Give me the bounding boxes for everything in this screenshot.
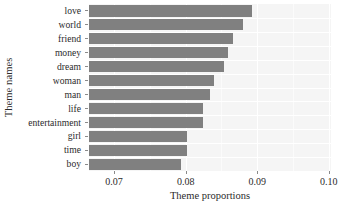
y-axis-title: Theme names: [0, 0, 18, 175]
bar-row: [89, 157, 331, 171]
bar-row: [89, 46, 331, 60]
y-axis-tick-labels: loveworldfriendmoneydreamwomanmanlifeent…: [18, 4, 84, 171]
x-axis-tick-label-text: 0.10: [320, 175, 338, 189]
y-axis-tick-label: world: [18, 18, 84, 32]
y-axis-title-text: Theme names: [4, 58, 15, 118]
x-axis-title: Theme proportions: [89, 190, 331, 201]
bar-row: [89, 60, 331, 74]
tick-dash-icon: [85, 52, 88, 53]
bars-layer: [89, 4, 331, 171]
y-axis-tick-label: boy: [18, 157, 84, 171]
x-axis-tick-label-text: 0.08: [177, 175, 195, 189]
y-axis-tick-label-text: friend: [58, 34, 81, 44]
bar: [89, 61, 224, 72]
bar-row: [89, 101, 331, 115]
x-axis-tick-mark: [257, 171, 258, 174]
y-axis-tick-label: man: [18, 88, 84, 102]
tick-dash-icon: [85, 94, 88, 95]
y-axis-tick-label-text: entertainment: [28, 118, 81, 128]
x-axis-tick-labels: 0.070.080.090.10: [89, 175, 331, 189]
bar-row: [89, 143, 331, 157]
tick-dash-icon: [85, 150, 88, 151]
bar: [89, 5, 252, 16]
y-axis-tick-label: girl: [18, 129, 84, 143]
y-axis-tick-label: dream: [18, 60, 84, 74]
bar: [89, 33, 233, 44]
bar: [89, 89, 210, 100]
tick-dash-icon: [85, 24, 88, 25]
tick-dash-icon: [85, 164, 88, 165]
y-axis-tick-label-text: boy: [67, 159, 81, 169]
bar-row: [89, 74, 331, 88]
tick-dash-icon: [85, 80, 88, 81]
y-axis-tick-label: life: [18, 101, 84, 115]
y-axis-tick-label-text: woman: [53, 76, 81, 86]
bar-chart: Theme names loveworldfriendmoneydreamwom…: [0, 0, 346, 217]
bar-row: [89, 18, 331, 32]
y-axis-tick-label-text: man: [64, 90, 81, 100]
x-axis-tick-label-text: 0.09: [249, 175, 267, 189]
x-axis-tick-label-text: 0.07: [105, 175, 123, 189]
y-axis-tick-label-text: time: [64, 145, 81, 155]
bar: [89, 75, 214, 86]
y-axis-tick-label-text: life: [68, 104, 81, 114]
y-axis-tick-label-text: world: [59, 20, 81, 30]
bar: [89, 159, 181, 170]
bar-row: [89, 129, 331, 143]
bar-row: [89, 88, 331, 102]
bar: [89, 131, 187, 142]
y-axis-tick-label-text: love: [64, 6, 81, 16]
bar: [89, 117, 203, 128]
bar: [89, 19, 243, 30]
y-axis-tick-label: time: [18, 143, 84, 157]
bar-row: [89, 115, 331, 129]
tick-dash-icon: [85, 122, 88, 123]
y-axis-tick-label: friend: [18, 32, 84, 46]
y-axis-tick-label: money: [18, 46, 84, 60]
bar: [89, 47, 228, 58]
bar: [89, 103, 203, 114]
bar-row: [89, 32, 331, 46]
plot-panel: [89, 4, 331, 171]
y-axis-tick-label-text: money: [55, 48, 81, 58]
y-axis-tick-label-text: dream: [57, 62, 81, 72]
bar: [89, 145, 187, 156]
y-axis-tick-label-text: girl: [68, 131, 81, 141]
tick-dash-icon: [85, 38, 88, 39]
y-axis-tick-label: love: [18, 4, 84, 18]
y-axis-tick-label: entertainment: [18, 115, 84, 129]
y-axis-tick-label: woman: [18, 74, 84, 88]
x-axis-tick-mark: [114, 171, 115, 174]
tick-dash-icon: [85, 108, 88, 109]
x-axis-tick-mark: [329, 171, 330, 174]
x-axis-tick-mark: [186, 171, 187, 174]
tick-dash-icon: [85, 136, 88, 137]
tick-dash-icon: [85, 66, 88, 67]
bar-row: [89, 4, 331, 18]
tick-dash-icon: [85, 10, 88, 11]
